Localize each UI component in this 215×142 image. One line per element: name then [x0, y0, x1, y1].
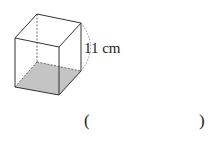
cube-figure: [0, 0, 215, 142]
answer-close-paren: ): [199, 112, 205, 129]
shaded-bottom-face: [15, 62, 81, 95]
edge-length-label: 11 cm: [84, 41, 121, 56]
answer-open-paren: (: [84, 112, 90, 129]
